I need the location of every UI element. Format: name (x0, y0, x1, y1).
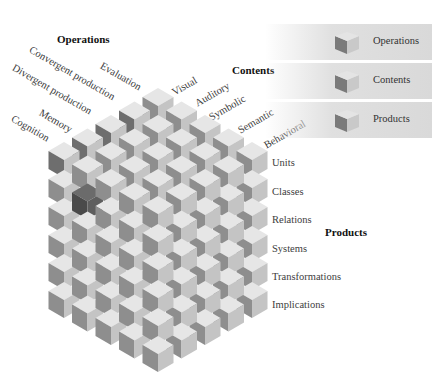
structure-of-intellect-cube (0, 0, 432, 392)
